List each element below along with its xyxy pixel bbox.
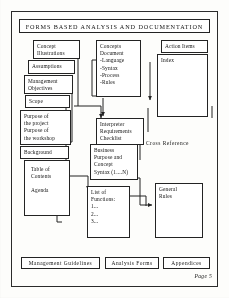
- box-concepts-document[interactable]: Concepts Document -Language -Syntax -Pro…: [96, 40, 141, 97]
- business-syntax-line1: Business: [94, 147, 134, 154]
- box-action-items[interactable]: Action Items: [161, 40, 208, 53]
- tab-appendices[interactable]: Appendices: [163, 257, 210, 269]
- box-assumptions[interactable]: Assumptions: [28, 60, 75, 74]
- tab-analysis-forms[interactable]: Analysis Forms: [105, 257, 159, 269]
- box-management-objectives[interactable]: Management Objectives: [24, 75, 73, 94]
- assumptions-line1: Assumptions: [32, 63, 71, 70]
- management-objectives-line1: Management: [28, 78, 69, 85]
- functions-item-3: 3...: [91, 218, 126, 225]
- interpreter-line1: Interpreter: [100, 121, 140, 128]
- interpreter-line2: Requirements: [100, 128, 140, 135]
- box-index[interactable]: Index: [157, 54, 208, 117]
- functions-item-2: 2...: [91, 211, 126, 218]
- box-concept-illustrations[interactable]: Concept Illustrations: [33, 40, 80, 59]
- functions-item-1: 1...: [91, 203, 126, 210]
- business-syntax-line2: Purpose and: [94, 154, 134, 161]
- general-rules-line2: Rules: [159, 193, 199, 200]
- background-line1: Background: [24, 149, 65, 156]
- diagram-page: FORMS BASED ANALYSIS AND DOCUMENTATION C…: [0, 0, 229, 298]
- box-general-rules[interactable]: General Rules: [155, 183, 203, 238]
- box-list-of-functions[interactable]: List of Functions: 1... 2... 3...: [87, 186, 130, 238]
- toc-spacer: [31, 180, 66, 187]
- tab-management-guidelines-label: Management Guidelines: [29, 260, 92, 266]
- tab-management-guidelines[interactable]: Management Guidelines: [21, 257, 100, 269]
- concept-illustrations-line2: Illustrations: [37, 50, 76, 57]
- purpose-line2: the project: [24, 120, 67, 127]
- box-table-of-contents[interactable]: Table of Contents Agenda: [24, 160, 70, 216]
- concept-illustrations-line1: Concept: [37, 43, 76, 50]
- box-business-concept-syntax[interactable]: Business Purpose and Concept Syntax (1..…: [90, 144, 138, 180]
- action-items-line1: Action Items: [165, 43, 204, 50]
- toc-line2: Contents: [31, 173, 66, 180]
- page-title-banner: FORMS BASED ANALYSIS AND DOCUMENTATION: [19, 19, 210, 33]
- concepts-document-process: -Process: [100, 72, 137, 79]
- toc-agenda: Agenda: [31, 187, 66, 194]
- box-background[interactable]: Background: [20, 146, 69, 159]
- concepts-document-line2: Document: [100, 50, 137, 57]
- concepts-document-rules: -Rules: [100, 79, 137, 86]
- business-syntax-line3: Concept: [94, 161, 134, 168]
- interpreter-line3: Checklist: [100, 135, 140, 142]
- purpose-line3: Purpose of: [24, 127, 67, 134]
- cross-reference-label: Cross Reference: [146, 140, 189, 146]
- tab-analysis-forms-label: Analysis Forms: [112, 260, 153, 266]
- tab-appendices-label: Appendices: [171, 260, 201, 266]
- index-line1: Index: [161, 57, 204, 64]
- purpose-line1: Purpose of: [24, 113, 67, 120]
- box-interpreter-checklist[interactable]: Interpreter Requirements Checklist: [96, 118, 144, 145]
- toc-line1: Table of: [31, 166, 66, 173]
- functions-line2: Functions:: [91, 196, 126, 203]
- concepts-document-line1: Concepts: [100, 43, 137, 50]
- management-objectives-line2: Objectives: [28, 85, 69, 92]
- general-rules-line1: General: [159, 186, 199, 193]
- box-scope[interactable]: Scope: [25, 95, 70, 108]
- concepts-document-syntax: -Syntax: [100, 65, 137, 72]
- page-number: Page 5: [195, 273, 213, 279]
- scope-line1: Scope: [29, 98, 66, 105]
- page-title: FORMS BASED ANALYSIS AND DOCUMENTATION: [26, 23, 203, 30]
- concepts-document-language: -Language: [100, 57, 137, 64]
- business-syntax-line4: Syntax (1....N): [94, 169, 134, 176]
- box-purpose[interactable]: Purpose of the project Purpose of the wo…: [20, 110, 71, 145]
- purpose-line4: the workshop: [24, 135, 67, 142]
- functions-line1: List of: [91, 189, 126, 196]
